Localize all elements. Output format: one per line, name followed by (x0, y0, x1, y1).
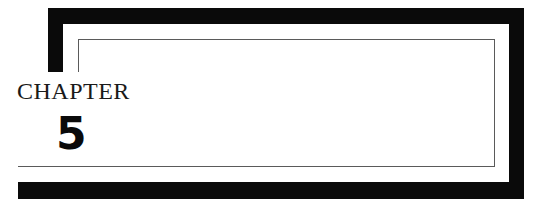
frame-bottom-bar (18, 182, 524, 199)
chapter-label: CHAPTER (17, 78, 130, 104)
frame-left-stub (48, 8, 63, 72)
inner-rule-left (78, 39, 79, 72)
chapter-number: 5 (56, 110, 87, 158)
inner-rule-top (78, 39, 495, 40)
inner-rule-right (494, 39, 495, 167)
frame-top-bar (48, 8, 524, 24)
frame-right-bar (509, 8, 524, 199)
inner-rule-bottom (18, 166, 495, 167)
